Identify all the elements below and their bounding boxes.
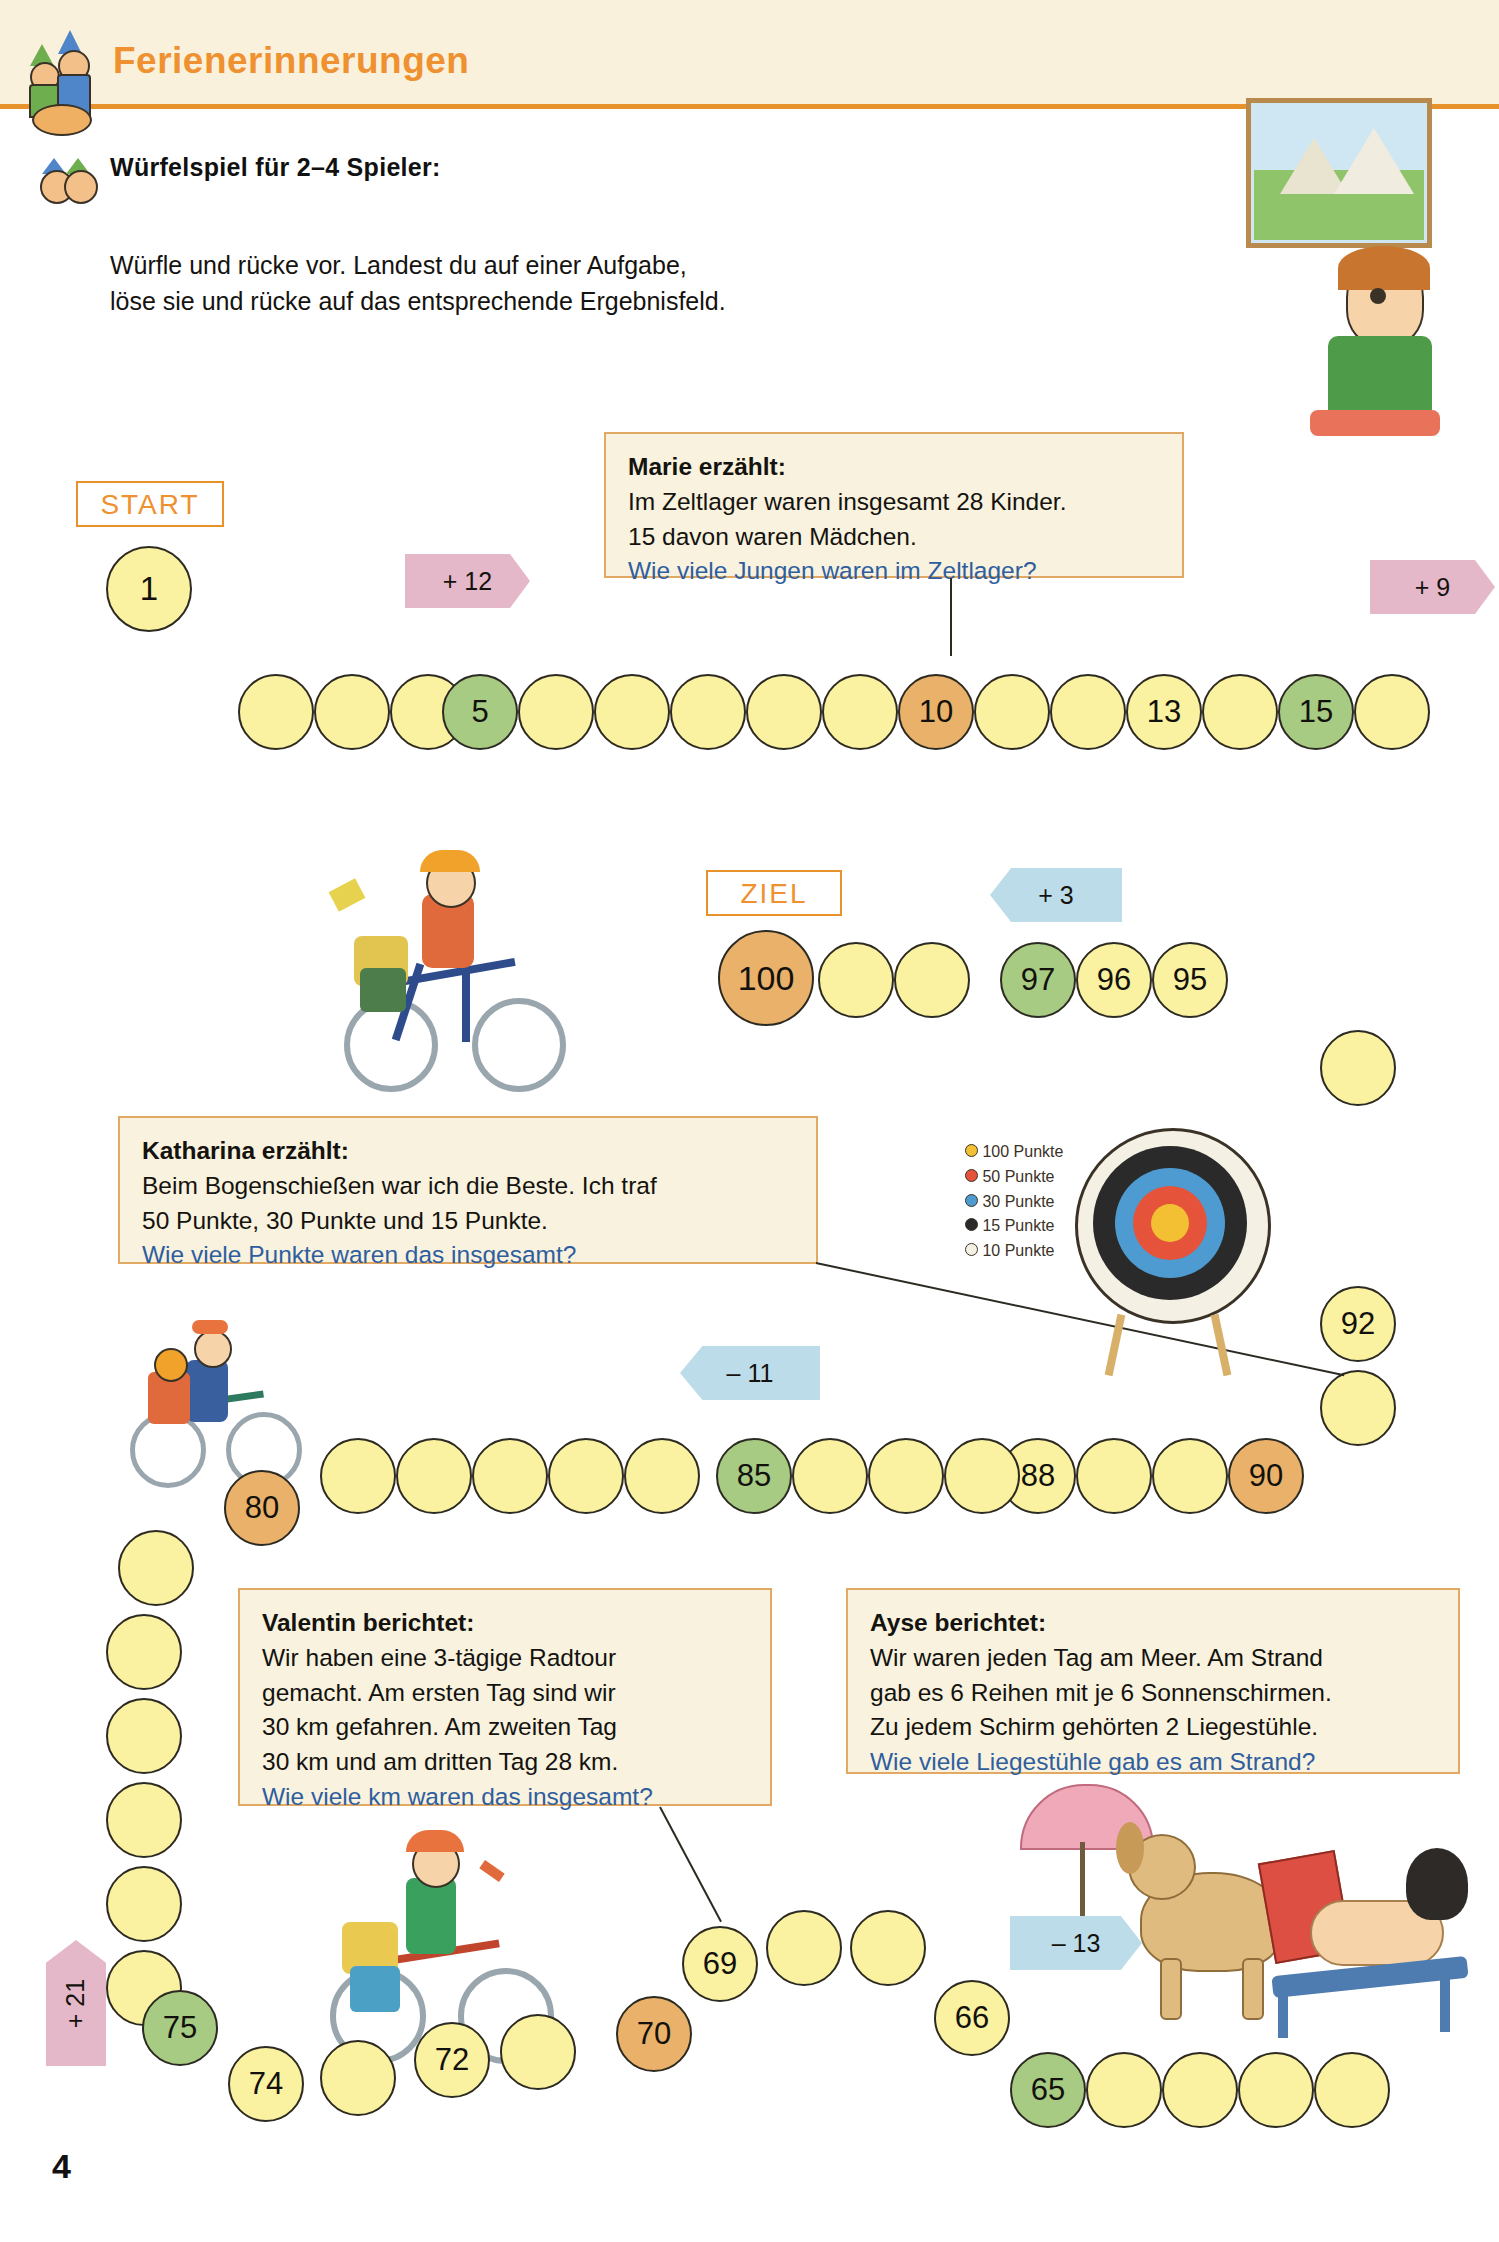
board-cell[interactable] bbox=[500, 2014, 576, 2090]
board-cell[interactable] bbox=[1320, 1030, 1396, 1106]
arrow-minus-13: – 13 bbox=[1010, 1916, 1142, 1970]
board-cell-92[interactable]: 92 bbox=[1320, 1286, 1396, 1362]
board-cell[interactable] bbox=[822, 674, 898, 750]
board-cell[interactable] bbox=[868, 1438, 944, 1514]
bubble-line: Wir haben eine 3-tägige Radtour bbox=[262, 1644, 616, 1671]
bubble-speaker: Valentin berichtet: bbox=[262, 1606, 748, 1641]
page-title: Ferienerinnerungen bbox=[113, 40, 469, 82]
bubble-line: 30 km und am dritten Tag 28 km. bbox=[262, 1748, 618, 1775]
bubble-speaker: Katharina erzählt: bbox=[142, 1134, 794, 1169]
board-cell[interactable] bbox=[1086, 2052, 1162, 2128]
board-cell[interactable] bbox=[670, 674, 746, 750]
cell-label: 5 bbox=[471, 694, 488, 730]
speech-bubble-katharina: Katharina erzählt: Beim Bogenschießen wa… bbox=[118, 1116, 818, 1264]
board-cell[interactable] bbox=[1050, 674, 1126, 750]
board-cell[interactable] bbox=[1238, 2052, 1314, 2128]
board-cell[interactable] bbox=[792, 1438, 868, 1514]
board-cell[interactable] bbox=[314, 674, 390, 750]
board-cell[interactable] bbox=[106, 1698, 182, 1774]
two-children-on-bicycle-illustration bbox=[120, 1320, 320, 1480]
cell-label: 80 bbox=[245, 1490, 279, 1526]
board-cell-85[interactable]: 85 bbox=[716, 1438, 792, 1514]
board-cell[interactable] bbox=[1354, 674, 1430, 750]
board-cell[interactable] bbox=[106, 1782, 182, 1858]
board-cell[interactable] bbox=[106, 1614, 182, 1690]
page-number: 4 bbox=[52, 2147, 71, 2186]
board-cell[interactable] bbox=[766, 1910, 842, 1986]
board-cell-13[interactable]: 13 bbox=[1126, 674, 1202, 750]
board-cell-96[interactable]: 96 bbox=[1076, 942, 1152, 1018]
board-cell-1[interactable]: 1 bbox=[106, 546, 192, 632]
board-cell[interactable] bbox=[472, 1438, 548, 1514]
board-cell[interactable] bbox=[396, 1438, 472, 1514]
two-faces-icon bbox=[40, 158, 100, 204]
board-cell-100[interactable]: 100 bbox=[718, 930, 814, 1026]
board-cell[interactable] bbox=[518, 674, 594, 750]
board-cell[interactable] bbox=[118, 1530, 194, 1606]
cell-label: 96 bbox=[1097, 962, 1131, 998]
bubble-leader-line bbox=[659, 1807, 722, 1923]
board-cell[interactable] bbox=[1320, 1370, 1396, 1446]
target-legend-item: 100 Punkte bbox=[982, 1143, 1063, 1160]
speech-bubble-ayse: Ayse berichtet: Wir waren jeden Tag am M… bbox=[846, 1588, 1460, 1774]
board-cell-90[interactable]: 90 bbox=[1228, 1438, 1304, 1514]
board-cell-75[interactable]: 75 bbox=[142, 1990, 218, 2066]
board-cell[interactable] bbox=[624, 1438, 700, 1514]
board-cell[interactable] bbox=[106, 1866, 182, 1942]
board-cell[interactable] bbox=[548, 1438, 624, 1514]
board-cell[interactable] bbox=[850, 1910, 926, 1986]
cell-label: 72 bbox=[435, 2042, 469, 2078]
board-cell[interactable] bbox=[974, 674, 1050, 750]
cell-label: 74 bbox=[249, 2066, 283, 2102]
board-cell-97[interactable]: 97 bbox=[1000, 942, 1076, 1018]
cell-label: 90 bbox=[1249, 1458, 1283, 1494]
board-cell[interactable] bbox=[1152, 1438, 1228, 1514]
board-cell[interactable] bbox=[1314, 2052, 1390, 2128]
cell-label: 10 bbox=[919, 694, 953, 730]
board-cell-95[interactable]: 95 bbox=[1152, 942, 1228, 1018]
board-cell[interactable] bbox=[238, 674, 314, 750]
board-cell-80[interactable]: 80 bbox=[224, 1470, 300, 1546]
subheading: Würfelspiel für 2–4 Spieler: bbox=[110, 153, 441, 182]
speech-bubble-valentin: Valentin berichtet: Wir haben eine 3-täg… bbox=[238, 1588, 772, 1806]
board-cell-66[interactable]: 66 bbox=[934, 1980, 1010, 2056]
board-cell[interactable] bbox=[746, 674, 822, 750]
board-cell-5[interactable]: 5 bbox=[442, 674, 518, 750]
bubble-line: 15 davon waren Mädchen. bbox=[628, 523, 917, 550]
board-cell-70[interactable]: 70 bbox=[616, 1996, 692, 2072]
cell-label: 15 bbox=[1299, 694, 1333, 730]
board-cell[interactable] bbox=[944, 1438, 1020, 1514]
board-cell[interactable] bbox=[320, 1438, 396, 1514]
target-legend-item: 30 Punkte bbox=[982, 1193, 1054, 1210]
arrow-label: – 11 bbox=[727, 1359, 774, 1388]
cell-label: 66 bbox=[955, 2000, 989, 2036]
cell-label: 88 bbox=[1021, 1458, 1055, 1494]
cell-label: 70 bbox=[637, 2016, 671, 2052]
bubble-line: gab es 6 Reihen mit je 6 Sonnenschirmen. bbox=[870, 1679, 1332, 1706]
board-cell-72[interactable]: 72 bbox=[414, 2022, 490, 2098]
arrow-label: + 3 bbox=[1038, 881, 1073, 910]
two-children-icon bbox=[24, 22, 100, 106]
bubble-line: 50 Punkte, 30 Punkte und 15 Punkte. bbox=[142, 1207, 548, 1234]
cell-label: 92 bbox=[1341, 1306, 1375, 1342]
cell-label: 85 bbox=[737, 1458, 771, 1494]
board-cell[interactable] bbox=[818, 942, 894, 1018]
board-cell[interactable] bbox=[1162, 2052, 1238, 2128]
board-cell-69[interactable]: 69 bbox=[682, 1926, 758, 2002]
board-cell[interactable] bbox=[894, 942, 970, 1018]
board-cell[interactable] bbox=[320, 2040, 396, 2116]
board-cell[interactable] bbox=[1076, 1438, 1152, 1514]
board-cell[interactable] bbox=[1202, 674, 1278, 750]
board-cell-65[interactable]: 65 bbox=[1010, 2052, 1086, 2128]
bubble-leader-line bbox=[950, 578, 952, 656]
board-cell-10[interactable]: 10 bbox=[898, 674, 974, 750]
board-cell-15[interactable]: 15 bbox=[1278, 674, 1354, 750]
bubble-line: gemacht. Am ersten Tag sind wir bbox=[262, 1679, 616, 1706]
arrow-label: + 12 bbox=[443, 567, 492, 596]
cell-label: 1 bbox=[140, 570, 158, 608]
arrow-plus-9: + 9 bbox=[1370, 560, 1495, 614]
board-cell-74[interactable]: 74 bbox=[228, 2046, 304, 2122]
speech-bubble-marie: Marie erzählt: Im Zeltlager waren insges… bbox=[604, 432, 1184, 578]
board-cell[interactable] bbox=[594, 674, 670, 750]
instruction-line-1: Würfle und rücke vor. Landest du auf ein… bbox=[110, 248, 910, 284]
